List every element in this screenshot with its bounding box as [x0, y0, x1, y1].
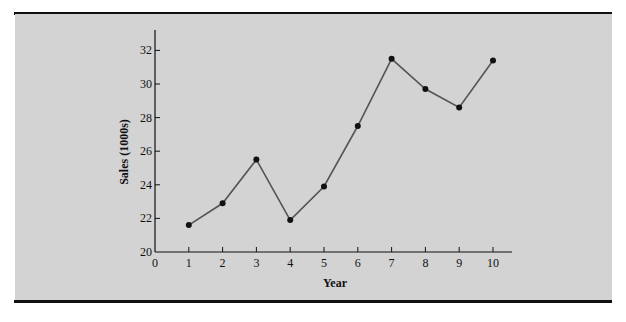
y-tick-label: 22 [140, 211, 152, 225]
y-tick-label: 24 [140, 178, 152, 192]
axes [155, 30, 512, 252]
data-point [422, 86, 428, 92]
x-tick-label: 10 [487, 256, 499, 270]
data-point [287, 217, 293, 223]
sales-line [189, 59, 493, 225]
time-series-chart: 20222426283032 012345678910 Sales (1000s… [0, 0, 626, 322]
x-tick-label: 1 [186, 256, 192, 270]
data-point [186, 222, 192, 228]
x-tick-label: 2 [220, 256, 226, 270]
data-point [490, 57, 496, 63]
data-point [253, 157, 259, 163]
x-axis-title: Year [323, 276, 348, 290]
data-markers [186, 56, 496, 228]
x-tick-label: 6 [355, 256, 361, 270]
y-tick-label: 28 [140, 111, 152, 125]
y-tick-label: 30 [140, 77, 152, 91]
y-axis-title: Sales (1000s) [117, 119, 131, 185]
x-axis-ticks: 012345678910 [152, 247, 499, 270]
data-point [456, 105, 462, 111]
data-point [389, 56, 395, 62]
x-tick-label: 7 [389, 256, 395, 270]
y-axis-ticks: 20222426283032 [140, 43, 160, 259]
x-tick-label: 0 [152, 256, 158, 270]
x-tick-label: 4 [287, 256, 293, 270]
data-point [355, 123, 361, 129]
data-point [321, 183, 327, 189]
y-tick-label: 26 [140, 144, 152, 158]
y-tick-label: 32 [140, 43, 152, 57]
x-tick-label: 5 [321, 256, 327, 270]
x-tick-label: 3 [253, 256, 259, 270]
data-point [220, 200, 226, 206]
x-tick-label: 9 [456, 256, 462, 270]
x-tick-label: 8 [422, 256, 428, 270]
y-tick-label: 20 [140, 245, 152, 259]
